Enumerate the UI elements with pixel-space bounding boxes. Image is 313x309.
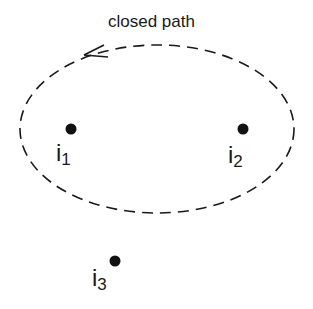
diagram-canvas: closed path i1 i2 i3 bbox=[0, 0, 313, 309]
closed-path-ellipse bbox=[20, 45, 294, 213]
point-i3-dot bbox=[110, 256, 121, 267]
point-i1-dot bbox=[66, 124, 77, 135]
point-i2-dot bbox=[238, 124, 249, 135]
point-i2-label: i2 bbox=[228, 141, 243, 171]
point-i3-label: i3 bbox=[92, 264, 107, 294]
point-i1-label: i1 bbox=[56, 139, 71, 169]
closed-path-label: closed path bbox=[108, 12, 195, 31]
